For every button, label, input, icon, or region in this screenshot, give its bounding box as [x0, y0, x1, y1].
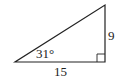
right-triangle	[15, 5, 105, 62]
angle-label: 31°	[36, 46, 54, 61]
right-angle-marker	[97, 54, 105, 62]
triangle-diagram: 31° 9 15	[0, 0, 116, 84]
adjacent-side-label: 15	[54, 64, 67, 79]
opposite-side-label: 9	[108, 28, 115, 43]
